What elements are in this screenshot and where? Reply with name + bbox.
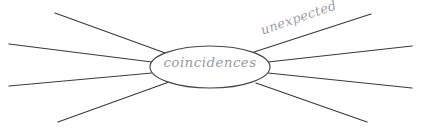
ray-middle-lower-right bbox=[268, 73, 412, 88]
diagram-canvas: coincidences unexpected bbox=[0, 0, 421, 134]
ray-middle-lower-left bbox=[9, 73, 152, 86]
ray-lower-left bbox=[58, 82, 169, 122]
hub-label: coincidences bbox=[150, 56, 270, 70]
ray-middle-upper-right bbox=[268, 46, 412, 62]
ray-upper-left bbox=[55, 13, 168, 54]
ray-middle-upper-left bbox=[9, 44, 152, 62]
ray-lower-right bbox=[256, 83, 367, 122]
